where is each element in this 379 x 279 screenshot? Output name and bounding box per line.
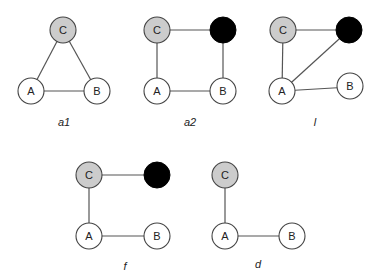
node-b-label: B <box>219 85 226 97</box>
node-a-label: A <box>153 85 161 97</box>
caption-a2: a2 <box>184 116 196 128</box>
node-c-label: C <box>221 169 229 181</box>
caption-l: l <box>314 116 317 128</box>
node-a-label: A <box>85 230 93 242</box>
caption-f: f <box>123 260 127 272</box>
node-c-label: C <box>279 24 287 36</box>
node-black <box>336 17 362 43</box>
node-b-label: B <box>346 80 353 92</box>
node-a-label: A <box>221 230 229 242</box>
graph-a1: C A B a1 <box>18 17 110 128</box>
node-b-label: B <box>93 85 100 97</box>
caption-a1: a1 <box>58 116 70 128</box>
graph-a2: C A B a2 <box>144 17 236 128</box>
graph-diagram: C A B a1 C A B a2 C A B l <box>0 0 379 279</box>
node-a-label: A <box>278 85 286 97</box>
graph-f: C A B f <box>76 162 170 272</box>
node-a-label: A <box>27 85 35 97</box>
node-c-label: C <box>85 169 93 181</box>
caption-d: d <box>255 258 262 270</box>
node-c-label: C <box>59 24 67 36</box>
graph-l: C A B l <box>269 17 363 128</box>
graph-d: C A B d <box>212 162 305 270</box>
node-c-label: C <box>153 24 161 36</box>
node-black <box>210 17 236 43</box>
node-b-label: B <box>153 230 160 242</box>
node-b-label: B <box>288 230 295 242</box>
node-black <box>144 162 170 188</box>
